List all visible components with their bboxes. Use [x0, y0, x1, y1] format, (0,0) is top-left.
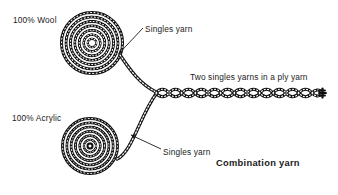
- yarn-diagram-figure: 100% Wool 100% Acrylic Singles yarn Sing…: [0, 0, 338, 195]
- figure-caption: Combination yarn: [216, 158, 300, 168]
- label-singles-yarn-top: Singles yarn: [145, 24, 192, 34]
- label-ply-yarn: Two singles yarns in a ply yarn: [190, 72, 308, 82]
- label-acrylic: 100% Acrylic: [12, 113, 61, 123]
- label-wool: 100% Wool: [13, 15, 57, 25]
- label-singles-yarn-bottom: Singles yarn: [163, 147, 210, 157]
